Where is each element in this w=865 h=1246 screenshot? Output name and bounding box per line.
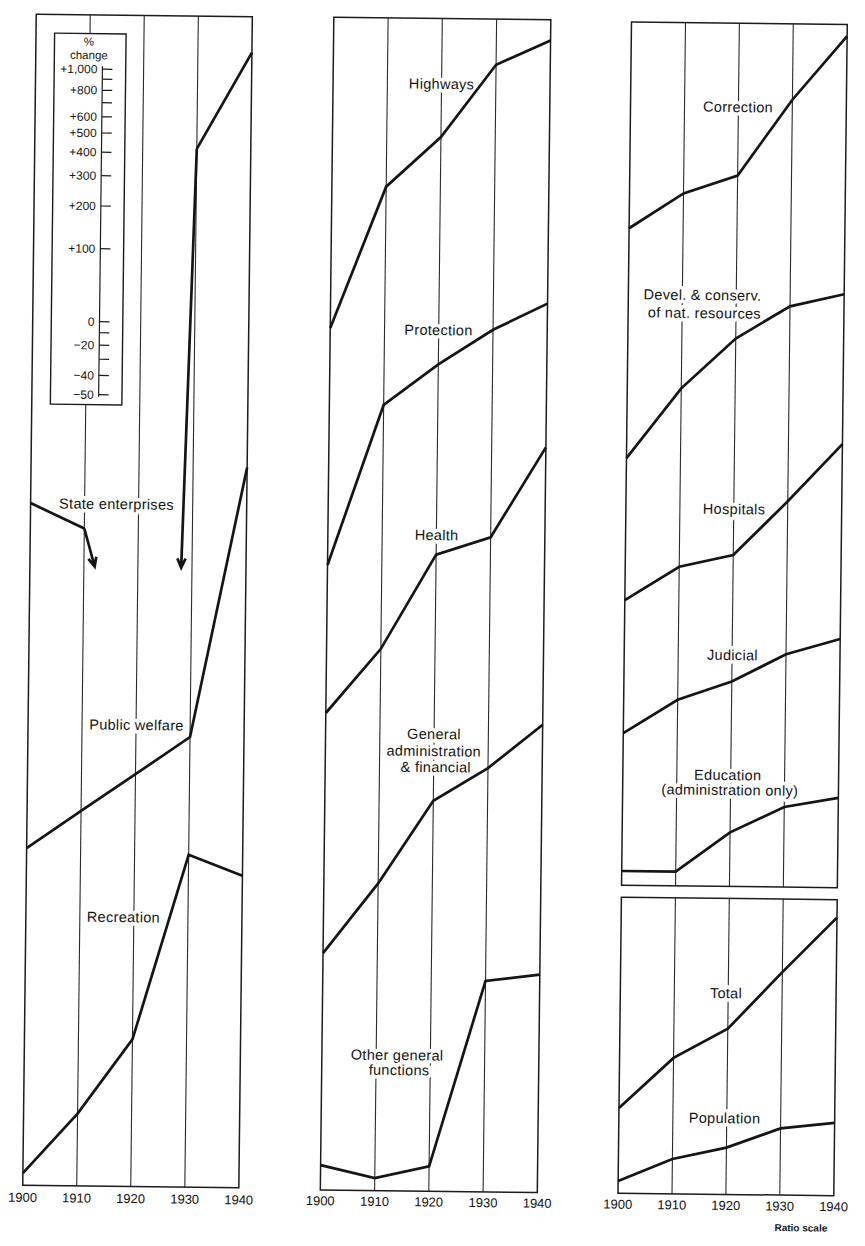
series-label-population: Population bbox=[689, 1110, 761, 1127]
percent-change-scale: % change +1,000+800+600+500+400+300+200+… bbox=[50, 33, 126, 405]
x-tick-label-1920: 1920 bbox=[116, 1191, 145, 1206]
series-label-public-welfare: Public welfare bbox=[89, 716, 184, 733]
scale-tick-label: 0 bbox=[88, 315, 95, 329]
scale-tick-label: −20 bbox=[74, 338, 95, 352]
scale-tick-label: −50 bbox=[73, 388, 94, 402]
scale-percent-symbol: % bbox=[84, 35, 94, 47]
ratio-scale-note: Ratio scale bbox=[774, 1222, 827, 1234]
x-tick-label-1920: 1920 bbox=[711, 1198, 740, 1213]
series-label-state-enterprises: State enterprises bbox=[59, 495, 174, 512]
series-label-protection: Protection bbox=[404, 322, 472, 339]
scale-tick-label: +200 bbox=[69, 199, 97, 213]
series-label-highways: Highways bbox=[409, 76, 474, 93]
x-tick-label-1930: 1930 bbox=[468, 1195, 497, 1210]
series-label-total: Total bbox=[710, 985, 742, 1001]
x-tick-label-1910: 1910 bbox=[657, 1197, 686, 1212]
scale-tick-label: +100 bbox=[68, 242, 96, 256]
x-tick-label-1930: 1930 bbox=[170, 1192, 199, 1207]
x-tick-label-1910: 1910 bbox=[62, 1190, 91, 1205]
series-label-judicial: Judicial bbox=[707, 647, 758, 664]
scale-tick-label: +800 bbox=[70, 83, 98, 97]
x-tick-label-1920: 1920 bbox=[414, 1194, 443, 1209]
scale-tick-label: −40 bbox=[73, 368, 94, 382]
expenditure-change-chart: % change +1,000+800+600+500+400+300+200+… bbox=[0, 0, 865, 1246]
x-tick-label-1910: 1910 bbox=[360, 1194, 389, 1209]
x-tick-label-1900: 1900 bbox=[8, 1190, 37, 1205]
x-tick-label-1900: 1900 bbox=[306, 1193, 335, 1208]
series-label-health: Health bbox=[415, 527, 459, 544]
series-label-recreation: Recreation bbox=[87, 909, 160, 926]
scale-tick-label: +600 bbox=[70, 110, 98, 124]
scale-title: change bbox=[70, 49, 108, 61]
x-tick-label-1930: 1930 bbox=[765, 1198, 794, 1213]
x-tick-label-1900: 1900 bbox=[603, 1197, 632, 1212]
x-tick-label-1940: 1940 bbox=[224, 1192, 253, 1207]
series-label-correction: Correction bbox=[703, 99, 773, 116]
scale-tick-label: +400 bbox=[69, 145, 97, 159]
x-tick-label-1940: 1940 bbox=[819, 1199, 848, 1214]
x-tick-label-1940: 1940 bbox=[523, 1196, 552, 1211]
series-label-hospitals: Hospitals bbox=[703, 501, 766, 518]
scale-tick-label: +1,000 bbox=[60, 62, 98, 76]
scale-tick-label: +300 bbox=[69, 169, 97, 183]
scale-tick-label: +500 bbox=[70, 126, 98, 140]
